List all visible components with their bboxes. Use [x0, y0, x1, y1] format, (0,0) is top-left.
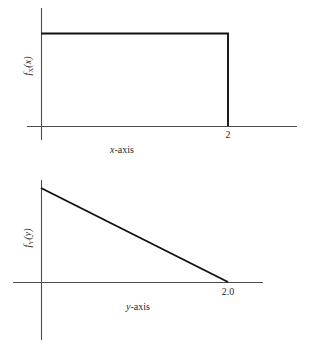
y-axis-label: fY(y) — [22, 228, 35, 248]
y-axis-label-argument: (y) — [22, 228, 34, 240]
uniform-density-curve — [41, 34, 228, 127]
x-tick-label-2: 2 — [226, 129, 231, 140]
triangular-density-curve — [41, 188, 228, 282]
uniform-pdf-plot: 2 x-axis fX(x) — [0, 0, 310, 180]
y-axis-label: fX(x) — [22, 56, 35, 76]
y-axis-label-argument: (x) — [22, 56, 34, 68]
triangular-pdf-plot: 2.0 y-axis fY(y) — [0, 175, 310, 360]
triangular-pdf-figure: 2.0 y-axis fY(y) — [0, 175, 310, 360]
uniform-pdf-figure: 2 x-axis fX(x) — [0, 0, 310, 180]
x-axis-caption: x-axis — [109, 144, 134, 155]
x-tick-label-2-0: 2.0 — [222, 286, 235, 297]
x-axis-caption-suffix: -axis — [131, 301, 151, 312]
x-axis-caption-suffix: -axis — [115, 144, 135, 155]
x-axis-caption: y-axis — [125, 301, 150, 312]
